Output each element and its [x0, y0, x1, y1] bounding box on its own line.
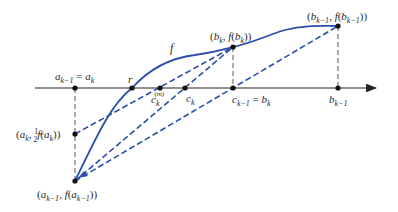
point-bk-f [230, 44, 235, 49]
label-akm1-eq-ak: ak−1 = ak [55, 70, 95, 85]
point-ck [182, 85, 187, 90]
regula-falsi-diagram: f ak−1 = ak r ck(m) ck ck−1 = bk bk−1 (b… [0, 0, 398, 212]
label-ckm1-eq-bk: ck−1 = bk [232, 93, 271, 108]
label-f: f [170, 41, 175, 55]
label-r: r [128, 73, 133, 85]
point-bkm1-axis [335, 85, 340, 90]
point-ak-half [72, 131, 77, 136]
secant-a-to-bk [75, 47, 233, 181]
label-ckm: ck(m) [151, 90, 165, 108]
label-bkm1: bk−1 [329, 93, 347, 108]
point-bkm1-f [335, 23, 340, 28]
label-akm1-fakm1: (ak−1, f(ak−1)) [37, 188, 97, 203]
point-r [129, 85, 134, 90]
point-akm1-f [72, 178, 77, 183]
label-bkm1-fbkm1: (bk−1, f(bk−1)) [307, 10, 367, 25]
point-bk-axis [230, 85, 235, 90]
label-ck: ck [186, 92, 195, 107]
secant-a-to-bkm1 [75, 26, 338, 181]
point-a [72, 85, 77, 90]
label-ak-half-fak: (ak, 12f(ak)) [16, 127, 61, 144]
